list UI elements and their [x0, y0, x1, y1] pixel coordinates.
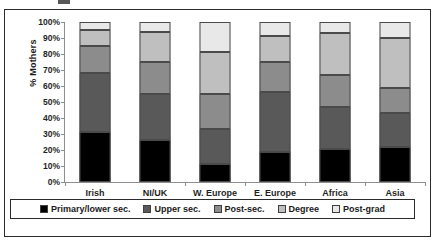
bar-segment[interactable]	[320, 75, 351, 107]
y-axis-title: % Mothers	[28, 23, 38, 103]
legend-item[interactable]: Post-sec.	[214, 204, 265, 214]
bar-category-slot: Asia	[365, 22, 425, 182]
bar-category-slot: Africa	[305, 22, 365, 182]
y-axis-tick-label: 30%	[43, 129, 60, 139]
x-axis-tick-label: W. Europe	[185, 188, 245, 198]
y-axis-tick-label: 60%	[43, 81, 60, 91]
bar-segment[interactable]	[380, 38, 411, 88]
bar-segment[interactable]	[200, 52, 231, 94]
x-axis-tick-mark	[365, 182, 366, 186]
chart-legend: Primary/lower sec.Upper sec.Post-sec.Deg…	[10, 199, 415, 219]
legend-item[interactable]: Primary/lower sec.	[40, 204, 131, 214]
stacked-bar[interactable]	[140, 22, 171, 182]
legend-item[interactable]: Degree	[278, 204, 320, 214]
x-axis-tick-label: Asia	[365, 188, 425, 198]
legend-item[interactable]: Post-grad	[332, 204, 385, 214]
bar-segment[interactable]	[320, 33, 351, 75]
y-axis-tick-label: 10%	[43, 161, 60, 171]
bar-segment[interactable]	[380, 88, 411, 113]
legend-item[interactable]: Upper sec.	[143, 204, 200, 214]
bar-segment[interactable]	[260, 152, 291, 182]
bar-segment[interactable]	[320, 107, 351, 149]
legend-item-label: Post-grad	[343, 204, 385, 214]
y-axis-tick-label: 90%	[43, 33, 60, 43]
legend-item-label: Degree	[289, 204, 320, 214]
legend-swatch-icon	[332, 205, 340, 213]
clipped-caption-mark	[58, 0, 70, 4]
plot-container: 100%90%80%70%60%50%40%30%20%10%0% IrishN…	[65, 22, 425, 191]
stacked-bar[interactable]	[380, 22, 411, 182]
bar-segment[interactable]	[80, 46, 111, 73]
bar-segment[interactable]	[380, 113, 411, 147]
x-axis-tick-mark	[185, 182, 186, 186]
bar-segment[interactable]	[320, 149, 351, 182]
bar-segment[interactable]	[200, 94, 231, 129]
legend-item-label: Upper sec.	[154, 204, 200, 214]
legend-item-label: Primary/lower sec.	[51, 204, 131, 214]
y-axis-tick-label: 100%	[38, 17, 60, 27]
y-axis-tick-label: 50%	[43, 97, 60, 107]
bar-category-slot: NI/UK	[125, 22, 185, 182]
x-axis-tick-label: Irish	[65, 188, 125, 198]
x-axis-tick-label: NI/UK	[125, 188, 185, 198]
bar-segment[interactable]	[140, 32, 171, 62]
bar-segment[interactable]	[260, 92, 291, 152]
legend-swatch-icon	[214, 205, 222, 213]
legend-swatch-icon	[143, 205, 151, 213]
x-axis-tick-mark	[305, 182, 306, 186]
bar-category-slot: Irish	[65, 22, 125, 182]
x-axis-tick-label: Africa	[305, 188, 365, 198]
legend-swatch-icon	[278, 205, 286, 213]
x-axis-tick-label: E. Europe	[245, 188, 305, 198]
x-axis-tick-mark	[65, 182, 66, 186]
bar-segment[interactable]	[140, 62, 171, 94]
bar-segment[interactable]	[80, 73, 111, 132]
bar-segment[interactable]	[320, 22, 351, 33]
bar-category-slot: E. Europe	[245, 22, 305, 182]
bar-segment[interactable]	[80, 30, 111, 46]
bar-segment[interactable]	[80, 132, 111, 182]
stacked-bar[interactable]	[320, 22, 351, 182]
stacked-bar[interactable]	[260, 22, 291, 182]
x-axis-tick-mark	[425, 182, 426, 186]
legend-swatch-icon	[40, 205, 48, 213]
bar-segment[interactable]	[80, 22, 111, 30]
y-axis-tick-label: 0%	[48, 177, 60, 187]
bar-segment[interactable]	[200, 22, 231, 52]
bar-category-slot: W. Europe	[185, 22, 245, 182]
y-axis-tick-label: 80%	[43, 49, 60, 59]
bar-segment[interactable]	[200, 129, 231, 164]
x-axis-tick-mark	[245, 182, 246, 186]
bar-segment[interactable]	[380, 22, 411, 38]
bar-segment[interactable]	[260, 36, 291, 62]
y-axis-tick-label: 20%	[43, 145, 60, 155]
legend-item-label: Post-sec.	[225, 204, 265, 214]
bar-segment[interactable]	[140, 140, 171, 182]
bar-segment[interactable]	[140, 22, 171, 32]
bar-segment[interactable]	[200, 164, 231, 182]
plot-area: 100%90%80%70%60%50%40%30%20%10%0% IrishN…	[65, 22, 425, 182]
y-axis-tick-label: 40%	[43, 113, 60, 123]
bar-segment[interactable]	[260, 22, 291, 36]
bar-segment[interactable]	[140, 94, 171, 140]
y-axis-tick-label: 70%	[43, 65, 60, 75]
stacked-bar[interactable]	[200, 22, 231, 182]
bar-segment[interactable]	[260, 62, 291, 92]
bar-segment[interactable]	[380, 147, 411, 182]
stacked-bar[interactable]	[80, 22, 111, 182]
